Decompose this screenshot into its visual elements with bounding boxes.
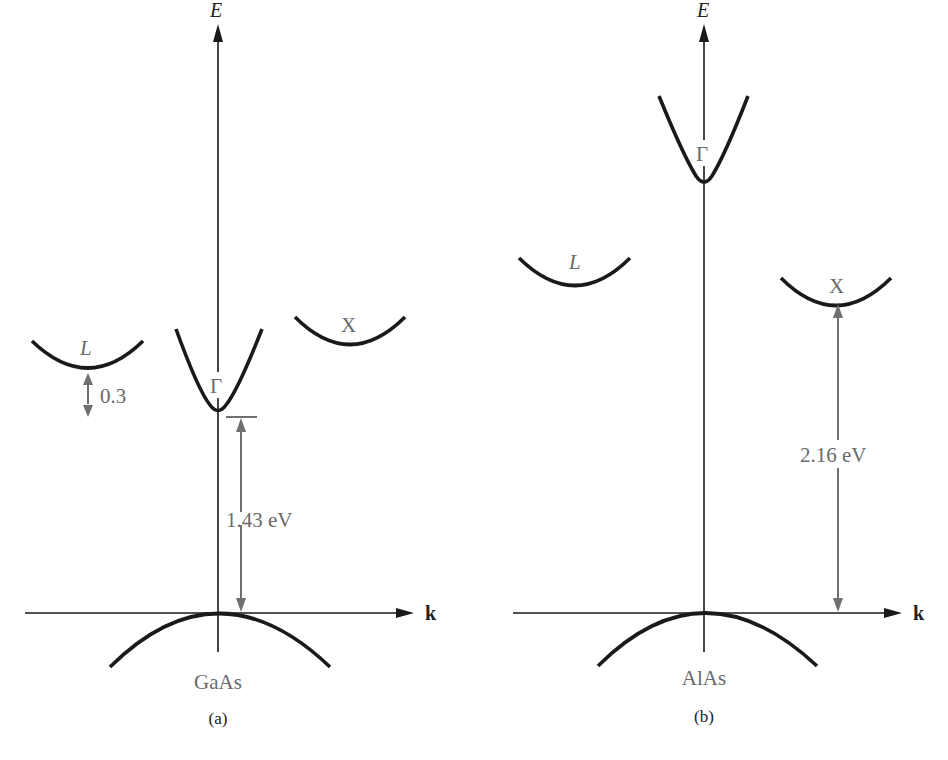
valence-band-a [110, 614, 330, 668]
l-offset-label-a: 0.3 [100, 384, 126, 408]
band-gap-label-a: 1.43 eV [226, 508, 293, 532]
valence-band-b [598, 613, 817, 666]
l-offset-arrow-a [83, 373, 93, 417]
x-valley-label-a: X [341, 313, 356, 337]
caption-b: (b) [694, 707, 714, 726]
k-axis-label-a: k [425, 602, 437, 624]
x-valley-label-b: X [829, 274, 844, 298]
material-label-a: GaAs [194, 670, 242, 694]
energy-axis-b [699, 24, 709, 652]
gamma-valley-label-b: Γ [696, 142, 708, 166]
k-axis-arrowhead-icon [396, 608, 414, 618]
energy-axis-arrowhead-icon [213, 24, 223, 42]
energy-axis-label-b: E [696, 0, 709, 21]
k-axis-label-b: k [913, 602, 925, 624]
panel-b-alas: E k Γ L X 2.16 eV AlAs (b) [513, 0, 925, 726]
band-structure-figure: E k L Γ X 0.3 [0, 0, 948, 760]
gamma-valley-a [176, 329, 262, 411]
panel-a-gaas: E k L Γ X 0.3 [25, 0, 437, 728]
gamma-valley-label-a: Γ [210, 374, 222, 398]
energy-axis-arrowhead-icon [699, 24, 709, 42]
band-gap-label-b: 2.16 eV [800, 443, 867, 467]
energy-axis-label-a: E [209, 0, 222, 21]
l-valley-label-a: L [79, 336, 92, 360]
caption-a: (a) [209, 709, 228, 728]
l-valley-label-b: L [568, 250, 581, 274]
energy-axis-a [213, 24, 223, 652]
k-axis-arrowhead-icon [884, 608, 902, 618]
material-label-b: AlAs [682, 666, 726, 690]
